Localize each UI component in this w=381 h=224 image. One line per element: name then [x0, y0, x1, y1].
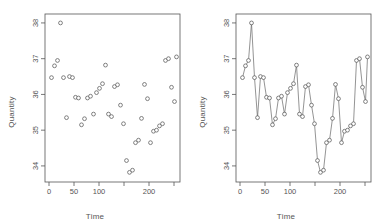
line-panel: 3435363738050100200 Time Quantity	[191, 0, 381, 224]
svg-text:38: 38	[223, 19, 232, 27]
svg-text:0: 0	[47, 187, 51, 196]
svg-text:37: 37	[223, 55, 232, 63]
y-axis-title-right: Quantity	[198, 82, 207, 142]
scatter-plot-canvas: 3435363738050100200	[0, 0, 190, 224]
scatter-panel: 3435363738050100200 Time Quantity	[0, 0, 190, 224]
y-axis-title-left: Quantity	[7, 82, 16, 142]
two-panel-quantity-time-figure: 3435363738050100200 Time Quantity 343536…	[0, 0, 381, 224]
svg-text:50: 50	[261, 187, 269, 196]
x-axis-title-left: Time	[0, 212, 190, 221]
svg-text:37: 37	[32, 55, 41, 63]
svg-text:34: 34	[32, 162, 41, 170]
line-plot-canvas: 3435363738050100200	[191, 0, 381, 224]
svg-text:35: 35	[223, 126, 232, 134]
svg-text:36: 36	[223, 90, 232, 98]
svg-text:200: 200	[143, 187, 156, 196]
svg-text:100: 100	[284, 187, 297, 196]
svg-text:34: 34	[223, 162, 232, 170]
svg-text:100: 100	[93, 187, 106, 196]
svg-text:35: 35	[32, 126, 41, 134]
x-axis-title-right: Time	[191, 212, 381, 221]
svg-text:0: 0	[238, 187, 242, 196]
svg-text:36: 36	[32, 90, 41, 98]
svg-text:50: 50	[70, 187, 78, 196]
svg-text:38: 38	[32, 19, 41, 27]
svg-text:200: 200	[334, 187, 347, 196]
